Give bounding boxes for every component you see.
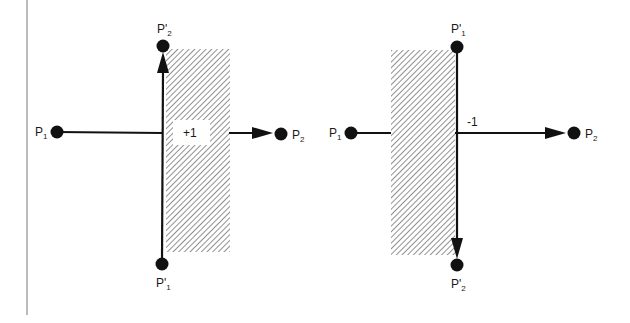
left-label-p1prime: P'1 bbox=[156, 276, 171, 292]
left-segment-p1prime-p2prime bbox=[162, 70, 163, 264]
left-label-p1: P1 bbox=[35, 125, 48, 141]
right-hatched-region bbox=[391, 50, 455, 255]
left-label-p2: P2 bbox=[292, 128, 305, 144]
right-point-p2 bbox=[568, 127, 581, 140]
left-point-p1prime bbox=[156, 258, 169, 271]
right-crossing-value: -1 bbox=[467, 115, 478, 129]
right-figure: P1 P2 P'1 P'2 -1 bbox=[329, 22, 598, 293]
right-label-p1: P1 bbox=[329, 126, 342, 142]
left-arrow-to-p2-icon bbox=[252, 127, 273, 139]
left-figure: P1 P2 P'2 P'1 +1 bbox=[35, 22, 305, 292]
left-label-p2prime: P'2 bbox=[157, 22, 172, 38]
crossing-number-diagram: P1 P2 P'2 P'1 +1 P1 P2 P'1 P'2 -1 bbox=[0, 0, 630, 323]
left-point-p2prime bbox=[157, 40, 170, 53]
left-point-p2 bbox=[275, 128, 288, 141]
left-point-p1 bbox=[51, 126, 64, 139]
right-label-p2: P2 bbox=[585, 127, 598, 143]
right-point-p2prime bbox=[451, 259, 464, 272]
right-label-p1prime: P'1 bbox=[451, 22, 466, 38]
left-hatched-region bbox=[166, 49, 230, 252]
right-label-p2prime: P'2 bbox=[451, 277, 466, 293]
left-crossing-value: +1 bbox=[183, 126, 197, 140]
right-point-p1 bbox=[345, 127, 358, 140]
right-point-p1prime bbox=[451, 41, 464, 54]
right-arrow-to-p2-icon bbox=[545, 127, 566, 139]
left-segment-p1-p2-part1 bbox=[57, 132, 163, 133]
